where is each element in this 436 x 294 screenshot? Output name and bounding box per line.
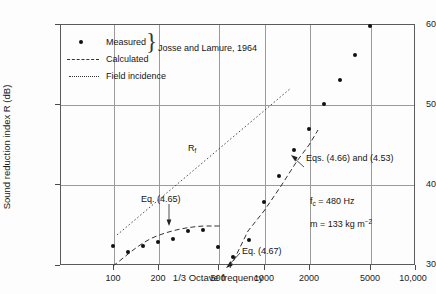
data-point — [201, 228, 205, 232]
data-point — [216, 245, 220, 249]
parameter-block: fc = 480 Hz m = 133 kg m−2 — [310, 196, 372, 242]
annotation-rf: Rf — [188, 143, 196, 153]
x-tick-mark-2000 — [309, 265, 310, 270]
annotation-rf-subscript: f — [195, 147, 197, 154]
data-point — [186, 229, 190, 233]
annotation-eq-466-453: Eqs. (4.66) and (4.53) — [306, 153, 394, 163]
legend-label-measured: Measured — [106, 37, 146, 47]
data-point — [338, 78, 342, 82]
parameter-surface-mass: m = 133 kg m−2 — [310, 219, 372, 229]
x-tick-mark-100 — [113, 265, 114, 270]
x-tick-mark-1000 — [264, 265, 265, 270]
data-point — [292, 148, 296, 152]
parameter-critical-frequency: fc = 480 Hz — [310, 196, 372, 206]
annotation-eq-467: Eq. (4.67) — [242, 246, 282, 256]
x-tick-mark-10000 — [415, 265, 416, 270]
data-point — [247, 238, 251, 242]
dotted-line-icon — [66, 68, 100, 85]
gridline-x-200 — [159, 25, 160, 264]
dashed-line-icon — [66, 51, 100, 68]
data-point — [277, 174, 281, 178]
filled-circle-icon — [66, 34, 100, 51]
x-axis-title: 1/3 Octave frequency — [0, 272, 436, 283]
mass-value: = 133 kg m — [318, 219, 365, 229]
data-point — [322, 102, 326, 106]
x-axis-title-text: 1/3 Octave frequency — [173, 272, 263, 283]
mass-exponent: −2 — [365, 218, 372, 225]
y-tick-label-40: 40 — [414, 180, 436, 189]
data-point — [307, 127, 311, 131]
fc-subscript: c — [313, 200, 316, 207]
x-tick-mark-5000 — [370, 265, 371, 270]
data-point — [368, 24, 372, 28]
data-point — [126, 250, 130, 254]
data-point — [111, 244, 115, 248]
gridline-x-500 — [219, 25, 220, 264]
gridline-x-1000 — [265, 25, 266, 264]
data-point — [262, 200, 266, 204]
y-tick-label-30: 30 — [414, 260, 436, 269]
y-tick-label-50: 50 — [414, 100, 436, 109]
mass-symbol: m — [310, 219, 318, 229]
legend-source-text: Josse and Lamure, 1964 — [158, 43, 257, 53]
data-point — [141, 244, 145, 248]
chart-figure: Sound reduction index R (dB) 60 50 40 30… — [0, 0, 436, 294]
brace-icon: } — [146, 30, 157, 53]
annotation-rf-text: R — [188, 143, 195, 153]
data-point — [231, 255, 235, 259]
legend-label-field-incidence: Field incidence — [106, 71, 166, 81]
x-tick-mark-500 — [218, 265, 219, 270]
data-point — [156, 240, 160, 244]
y-tick-mark-30 — [55, 265, 60, 266]
y-axis-title: Sound reduction index R (dB) — [0, 0, 13, 294]
fc-value: = 480 Hz — [316, 196, 355, 206]
y-tick-label-60: 60 — [414, 20, 436, 29]
x-tick-mark-200 — [158, 265, 159, 270]
data-point — [171, 237, 175, 241]
annotation-eq-465: Eq. (4.65) — [141, 194, 181, 204]
y-axis-title-text: Sound reduction index R (dB) — [1, 85, 12, 210]
legend-label-calculated: Calculated — [106, 54, 149, 64]
data-point — [353, 53, 357, 57]
